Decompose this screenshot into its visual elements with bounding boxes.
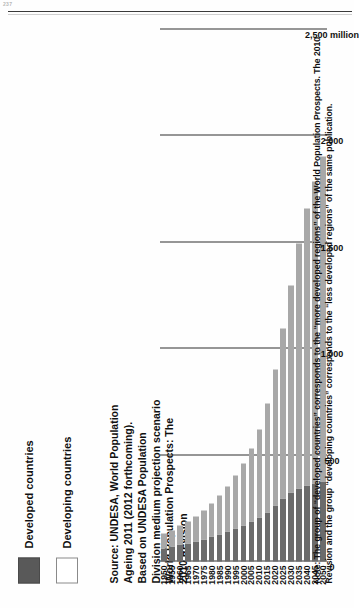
chart-bar-segment-developed (233, 528, 239, 561)
chart-bar-segment-developed (217, 534, 223, 561)
legend-swatch-developed (18, 558, 40, 584)
chart-bar-segment-developed (201, 539, 207, 561)
chart-bar (249, 449, 255, 562)
chart-bar-segment-developing (273, 369, 279, 505)
chart-bar-segment-developing (185, 522, 191, 543)
chart-bar-segment-developing (193, 516, 199, 541)
chart-bar (280, 328, 286, 561)
chart-bar (225, 486, 231, 561)
chart-bar-segment-developed (209, 537, 215, 562)
legend-item-developing: Developing countries (56, 334, 78, 584)
chart-bar (304, 209, 310, 562)
chart-bar-segment-developing (217, 496, 223, 535)
chart-bar (185, 522, 191, 562)
chart-gridline (160, 348, 327, 349)
chart-gridline (160, 29, 327, 30)
legend-swatch-developing (56, 558, 78, 584)
figure-note: Note: The group of “developed countries”… (312, 24, 335, 584)
chart-bar-segment-developed (257, 517, 263, 561)
chart-bar (161, 534, 167, 562)
chart-bar-segment-developing (209, 504, 215, 537)
chart-bar-segment-developing (169, 530, 175, 547)
chart-bar (233, 475, 239, 561)
chart-bar (209, 504, 215, 562)
chart-bar (169, 530, 175, 561)
chart-gridline (160, 135, 327, 136)
chart-bar-segment-developed (288, 493, 294, 562)
chart-bar (265, 403, 271, 561)
figure: Developed countries Developing countries… (12, 17, 342, 592)
chart-bar-segment-developing (201, 510, 207, 539)
chart-bar-segment-developing (233, 475, 239, 528)
chart-bar (217, 496, 223, 562)
chart-bar-segment-developing (265, 403, 271, 512)
chart-plot-area (160, 30, 327, 562)
chart-bar-segment-developed (265, 512, 271, 561)
chart-bar-segment-developing (288, 285, 294, 492)
chart-bar (296, 244, 302, 562)
legend-label-developed: Developed countries (23, 440, 35, 548)
chart-bar (177, 526, 183, 562)
chart-bar-segment-developed (177, 545, 183, 562)
chart-bar-segment-developed (169, 547, 175, 562)
chart-bar-segment-developed (280, 499, 286, 562)
chart-bar-segment-developing (177, 526, 183, 545)
chart-bar-segment-developing (304, 209, 310, 486)
chart-bar-segment-developed (296, 488, 302, 561)
chart-bar (257, 429, 263, 561)
chart-bar-segment-developed (161, 548, 167, 561)
chart-bar (201, 510, 207, 561)
chart-bar-segment-developed (304, 485, 310, 561)
chart-gridline (160, 241, 327, 242)
chart-bar-segment-developed (241, 525, 247, 561)
chart-bar-segment-developing (161, 534, 167, 548)
chart-bar (193, 516, 199, 561)
legend-label-developing: Developing countries (61, 437, 73, 549)
chart-bars (160, 30, 327, 562)
legend-item-developed: Developed countries (18, 334, 40, 584)
chart-bar-segment-developed (225, 531, 231, 561)
chart-bar-segment-developed (193, 541, 199, 561)
chart-bar-segment-developing (249, 449, 255, 522)
chart-bar-segment-developed (273, 506, 279, 562)
chart-bar-segment-developing (296, 244, 302, 489)
chart-bar (241, 463, 247, 561)
chart-bar-segment-developed (185, 543, 191, 561)
chart-gridline (160, 454, 327, 455)
chart-category-axis: 1950195519601965197019751980198519901995… (160, 564, 327, 592)
chart-legend: Developed countries Developing countries (18, 334, 94, 584)
chart-bar-segment-developing (280, 329, 286, 499)
chart-bar-segment-developing (241, 463, 247, 525)
chart-bar-segment-developing (225, 486, 231, 531)
chart-bar (273, 369, 279, 561)
chart-bar-segment-developing (257, 429, 263, 517)
chart-bar-segment-developed (249, 522, 255, 562)
chart-bar (288, 285, 294, 561)
